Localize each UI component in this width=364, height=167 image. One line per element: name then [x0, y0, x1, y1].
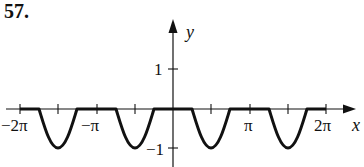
y-axis-arrow-icon — [169, 19, 178, 33]
y-axis — [169, 19, 178, 167]
x-tick-label-neg-pi: −π — [81, 116, 100, 135]
x-axis-label: x — [351, 115, 360, 135]
graph: −2π −π π 2π 1 −1 y x — [0, 0, 364, 167]
x-tick-label-neg-2pi: −2π — [1, 116, 28, 135]
y-tick-label-1: 1 — [154, 60, 163, 79]
y-axis-label: y — [184, 22, 194, 42]
x-axis-arrow-icon — [343, 105, 356, 114]
x-tick-label-2pi: 2π — [314, 116, 332, 135]
x-tick-label-pi: π — [244, 116, 253, 135]
y-tick-label-neg-1: −1 — [146, 140, 164, 159]
